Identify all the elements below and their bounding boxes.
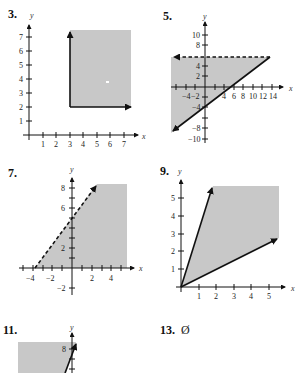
answer-graphs: 3. y x 1 2 3 4 5 6 7 1 2 3 <box>0 0 306 373</box>
svg-text:10: 10 <box>192 31 200 40</box>
svg-text:7: 7 <box>122 140 126 149</box>
x-axis-label: x <box>290 284 295 293</box>
shaded-region <box>70 30 131 107</box>
svg-text:2: 2 <box>54 140 58 149</box>
svg-text:4: 4 <box>171 212 175 221</box>
svg-text:10: 10 <box>249 92 257 101</box>
svg-text:−2: −2 <box>46 274 55 283</box>
svg-text:6: 6 <box>61 204 65 213</box>
svg-text:4: 4 <box>249 292 253 301</box>
svg-text:5: 5 <box>267 292 271 301</box>
problem-number: 7. <box>8 166 17 180</box>
svg-text:8: 8 <box>241 92 245 101</box>
svg-text:2: 2 <box>196 72 200 81</box>
svg-text:3: 3 <box>19 89 23 98</box>
problem-number: 9. <box>160 164 169 178</box>
svg-text:2: 2 <box>214 292 218 301</box>
svg-text:4: 4 <box>196 62 200 71</box>
svg-text:3: 3 <box>171 230 175 239</box>
svg-text:4: 4 <box>81 140 85 149</box>
y-axis-label: y <box>69 165 74 174</box>
x-axis-label: x <box>288 84 293 93</box>
svg-text:1: 1 <box>41 140 45 149</box>
svg-text:−2: −2 <box>57 284 66 293</box>
svg-text:14: 14 <box>269 92 277 101</box>
answer-13: 13. Ø <box>160 323 190 337</box>
graph-5: 5. y x −4 −2 4 6 8 10 12 14 10 8 <box>163 9 293 144</box>
svg-text:2: 2 <box>19 103 23 112</box>
x-axis-label: x <box>141 132 146 141</box>
svg-text:5: 5 <box>19 61 23 70</box>
svg-text:−4: −4 <box>182 92 191 101</box>
y-ticks: 1 2 3 4 5 <box>171 194 184 274</box>
svg-text:2: 2 <box>61 244 65 253</box>
svg-text:1: 1 <box>171 265 175 274</box>
y-axis-label: y <box>202 12 207 21</box>
svg-text:5: 5 <box>171 194 175 203</box>
svg-text:−8: −8 <box>192 124 201 133</box>
y-axis-label: y <box>69 323 74 332</box>
problem-number: 5. <box>163 9 172 23</box>
svg-text:4: 4 <box>19 75 23 84</box>
graph-9: 9. y x 1 2 3 4 5 1 2 3 4 5 <box>160 164 295 301</box>
svg-text:8: 8 <box>196 41 200 50</box>
test-point <box>106 81 109 83</box>
svg-text:−4: −4 <box>26 274 35 283</box>
problem-number: 11. <box>3 323 17 337</box>
svg-text:2: 2 <box>171 247 175 256</box>
svg-text:3: 3 <box>232 292 236 301</box>
svg-text:1: 1 <box>197 292 201 301</box>
svg-text:4: 4 <box>109 274 113 283</box>
empty-set-symbol: Ø <box>181 323 190 337</box>
x-axis-label: x <box>138 264 143 273</box>
graph-7: 7. y x −4 −2 2 4 8 6 2 −2 <box>8 165 143 295</box>
svg-text:6: 6 <box>232 92 236 101</box>
svg-text:7: 7 <box>19 33 23 42</box>
svg-text:3: 3 <box>68 140 72 149</box>
svg-text:6: 6 <box>19 47 23 56</box>
svg-text:8: 8 <box>61 184 65 193</box>
y-axis-label: y <box>29 11 34 20</box>
svg-text:−10: −10 <box>188 135 201 144</box>
svg-text:6: 6 <box>108 140 112 149</box>
shaded-region <box>181 186 279 287</box>
shaded-region <box>35 184 127 268</box>
graph-3: 3. y x 1 2 3 4 5 6 7 1 2 3 <box>8 7 146 149</box>
y-tick-label: 8 <box>62 345 66 354</box>
graph-11: 11. y 8 <box>3 323 76 373</box>
problem-number: 3. <box>8 7 17 21</box>
y-ticks: 1 2 3 4 5 6 7 <box>19 33 32 126</box>
y-axis-label: y <box>177 167 182 176</box>
svg-text:5: 5 <box>95 140 99 149</box>
svg-text:−2: −2 <box>191 92 200 101</box>
svg-text:2: 2 <box>90 274 94 283</box>
svg-text:1: 1 <box>19 117 23 126</box>
problem-number: 13. <box>160 323 175 337</box>
svg-text:12: 12 <box>259 92 267 101</box>
